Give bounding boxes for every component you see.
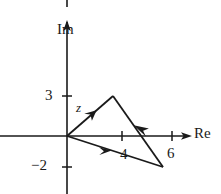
vector-z-line xyxy=(67,96,113,136)
vector-third-line xyxy=(67,136,163,167)
tick-label-re-6: 6 xyxy=(167,146,175,161)
imaginary-axis-label: Im xyxy=(57,22,74,37)
real-axis-label: Re xyxy=(194,126,211,141)
complex-plane-figure: Im Re 3 −2 4 6 z xyxy=(0,0,221,194)
tick-label-im-3: 3 xyxy=(45,88,53,103)
tick-label-im-minus2: −2 xyxy=(31,158,47,173)
tick-label-re-4: 4 xyxy=(120,147,128,162)
vector-z-label: z xyxy=(76,101,81,114)
